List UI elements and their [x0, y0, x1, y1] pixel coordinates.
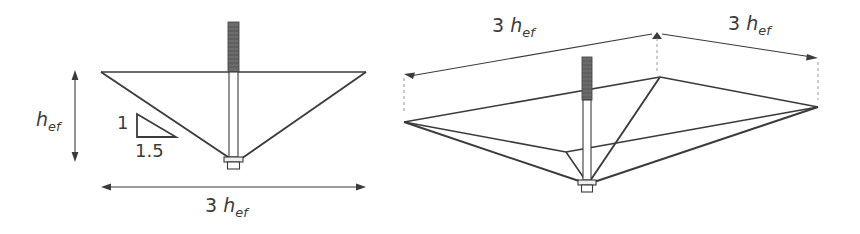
label-3hef-plan-right: 3 hef	[728, 12, 771, 38]
label-hef-height: hef	[36, 108, 61, 134]
three-multiplier: 3	[728, 12, 740, 34]
breakout-surface-plan	[404, 77, 818, 152]
height-dimension-line	[72, 70, 79, 162]
anchor-bolt-elevation	[224, 22, 243, 169]
breakout-pyramid-edges	[404, 77, 818, 184]
dimension-extension-lines	[404, 38, 818, 113]
hef-subscript: ef	[48, 119, 60, 134]
hef-subscript: ef	[235, 205, 247, 220]
isometric-3d-view	[404, 32, 818, 192]
label-slope-run: 1.5	[135, 140, 164, 161]
hef-symbol: h	[223, 194, 235, 216]
hef-symbol: h	[510, 14, 522, 36]
label-3hef-plan-left: 3 hef	[492, 14, 535, 40]
label-3hef-width: 3 hef	[205, 194, 248, 220]
label-slope-rise: 1	[117, 112, 128, 133]
hef-symbol: h	[36, 108, 48, 130]
three-multiplier: 3	[205, 194, 217, 216]
hef-subscript: ef	[758, 23, 770, 38]
side-elevation-view	[72, 22, 366, 190]
hef-symbol: h	[746, 12, 758, 34]
width-dimension-line	[101, 184, 366, 191]
plan-dimension-lines	[404, 32, 818, 79]
three-multiplier: 3	[492, 14, 504, 36]
hef-subscript: ef	[522, 25, 534, 40]
anchor-bolt-isometric	[578, 57, 596, 192]
